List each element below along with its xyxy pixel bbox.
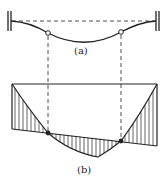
left-inflection-point-icon (46, 131, 51, 136)
right-inflection-point-icon (119, 139, 124, 144)
right-fixed-support-icon (156, 11, 159, 31)
part-b-label: (b) (77, 165, 91, 175)
part-a-label: (a) (74, 46, 88, 56)
right-hinge-icon (119, 30, 124, 35)
free-moment-curve (12, 84, 157, 157)
left-hinge-icon (46, 31, 51, 36)
part-b-moment-diagram (12, 80, 157, 165)
structural-diagram (0, 0, 167, 184)
end-moment-line (12, 129, 157, 146)
deflected-shape-curve (11, 21, 156, 42)
left-fixed-support-icon (8, 11, 11, 31)
part-a-beam (8, 11, 159, 42)
hatch-middle (52, 125, 116, 165)
